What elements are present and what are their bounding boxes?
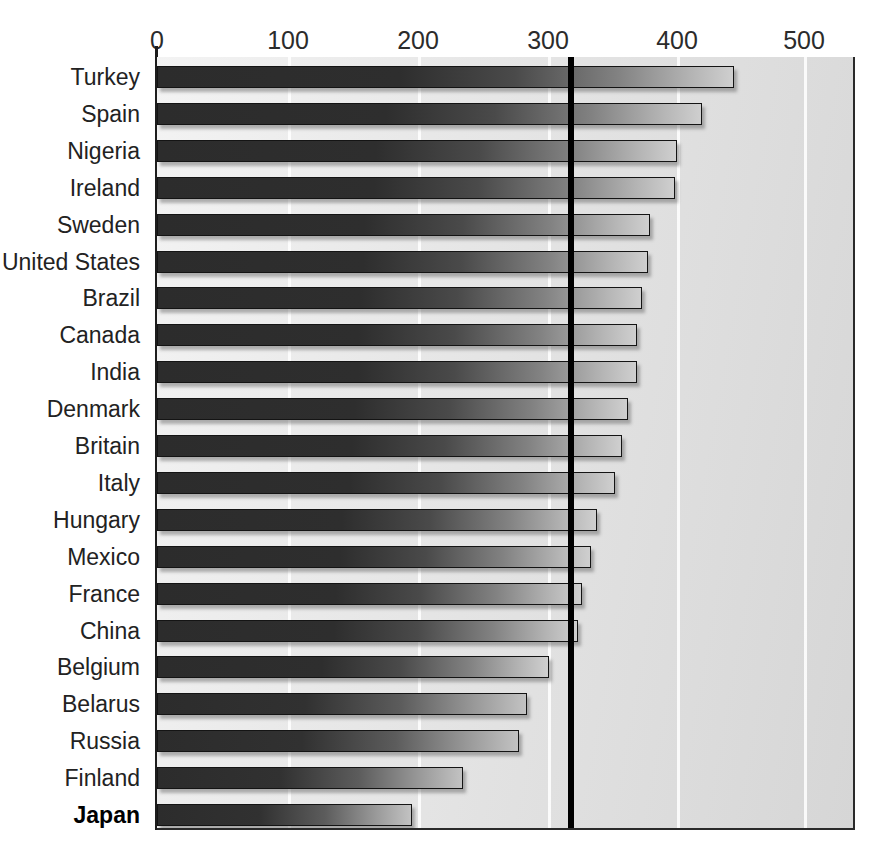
- plot-area: [157, 57, 855, 830]
- category-label-turkey: Turkey: [71, 64, 140, 91]
- x-tick-200: 200: [397, 26, 439, 55]
- bar-japan: [157, 804, 412, 828]
- bar-russia: [157, 730, 519, 754]
- bar-turkey: [157, 66, 734, 90]
- category-label-france: France: [68, 580, 140, 607]
- bar-italy: [157, 472, 615, 496]
- bar-rect: [157, 509, 597, 531]
- bar-rect: [157, 251, 648, 273]
- bar-rect: [157, 435, 622, 457]
- bar-rect: [157, 730, 519, 752]
- bar-rect: [157, 66, 734, 88]
- bar-rect: [157, 140, 677, 162]
- category-label-hungary: Hungary: [53, 506, 140, 533]
- category-label-india: India: [90, 359, 140, 386]
- bar-rect: [157, 583, 582, 605]
- x-tick-300: 300: [527, 26, 569, 55]
- bar-hungary: [157, 509, 597, 533]
- bar-rect: [157, 324, 637, 346]
- x-tick-100: 100: [267, 26, 309, 55]
- bar-rect: [157, 361, 637, 383]
- bar-britain: [157, 435, 622, 459]
- category-label-britain: Britain: [75, 433, 140, 460]
- bar-finland: [157, 767, 463, 791]
- gridline-500: [804, 57, 807, 828]
- bar-canada: [157, 324, 637, 348]
- bar-rect: [157, 656, 549, 678]
- category-label-sweden: Sweden: [57, 211, 140, 238]
- bar-rect: [157, 620, 578, 642]
- y-axis-category-labels: TurkeySpainNigeriaIrelandSwedenUnited St…: [0, 0, 150, 854]
- bar-china: [157, 620, 578, 644]
- category-label-finland: Finland: [65, 765, 140, 792]
- category-label-mexico: Mexico: [67, 543, 140, 570]
- threshold-line: [568, 57, 574, 828]
- bar-rect: [157, 472, 615, 494]
- gridline-400: [677, 57, 680, 828]
- bar-sweden: [157, 214, 650, 238]
- x-tick-500: 500: [783, 26, 825, 55]
- category-label-italy: Italy: [98, 469, 140, 496]
- bar-rect: [157, 103, 702, 125]
- bar-chart: 0 100 200 300 400 500 TurkeySpainNigeria…: [0, 0, 874, 854]
- bar-rect: [157, 546, 591, 568]
- bar-india: [157, 361, 637, 385]
- category-label-united-states: United States: [2, 248, 140, 275]
- category-label-spain: Spain: [81, 100, 140, 127]
- bar-belgium: [157, 656, 549, 680]
- bar-rect: [157, 214, 650, 236]
- x-tick-400: 400: [656, 26, 698, 55]
- bar-rect: [157, 693, 527, 715]
- bar-rect: [157, 804, 412, 826]
- bar-france: [157, 583, 582, 607]
- bar-united-states: [157, 251, 648, 275]
- category-label-belgium: Belgium: [57, 654, 140, 681]
- category-label-belarus: Belarus: [62, 691, 140, 718]
- bar-ireland: [157, 177, 675, 201]
- category-label-ireland: Ireland: [70, 174, 140, 201]
- bar-nigeria: [157, 140, 677, 164]
- category-label-canada: Canada: [59, 322, 140, 349]
- bar-denmark: [157, 398, 628, 422]
- bar-rect: [157, 767, 463, 789]
- bar-rect: [157, 398, 628, 420]
- bar-spain: [157, 103, 702, 127]
- category-label-brazil: Brazil: [82, 285, 140, 312]
- category-label-russia: Russia: [70, 728, 140, 755]
- bar-belarus: [157, 693, 527, 717]
- bar-mexico: [157, 546, 591, 570]
- category-label-japan: Japan: [74, 802, 140, 829]
- category-label-nigeria: Nigeria: [67, 137, 140, 164]
- category-label-china: China: [80, 617, 140, 644]
- category-label-denmark: Denmark: [47, 396, 140, 423]
- bar-rect: [157, 177, 675, 199]
